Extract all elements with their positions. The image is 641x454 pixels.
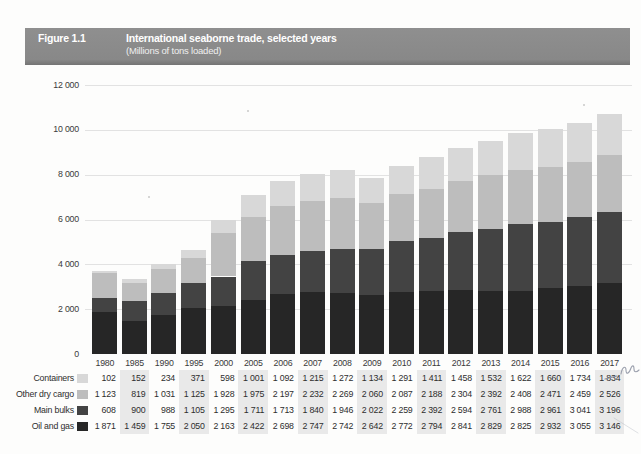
legend-cell-main-bulks: Main bulks	[0, 402, 90, 418]
value-containers-1980: 102	[90, 370, 120, 386]
value-other-dry-cargo-2011: 2 188	[417, 386, 447, 402]
bar-segment-other-dry-cargo-2013	[478, 175, 503, 229]
x-axis-label-2011: 2011	[417, 356, 447, 370]
bar-segment-containers-1990	[151, 264, 176, 269]
table-corner-cell	[0, 356, 90, 370]
value-other-dry-cargo-2013: 2 392	[476, 386, 506, 402]
bar-segment-oil-and-gas-1985	[122, 321, 147, 354]
bar-1985	[122, 85, 147, 354]
bar-segment-other-dry-cargo-2016	[567, 162, 592, 217]
bar-segment-main-bulks-2015	[538, 222, 563, 288]
bar-2005	[241, 85, 266, 354]
bar-segment-main-bulks-1995	[181, 283, 206, 308]
bar-segment-containers-2013	[478, 141, 503, 175]
x-axis-label-1985: 1985	[120, 356, 150, 370]
x-axis-label-2008: 2008	[328, 356, 358, 370]
bar-segment-oil-and-gas-2010	[389, 292, 414, 354]
value-main-bulks-2014: 2 988	[506, 402, 536, 418]
bar-segment-oil-and-gas-2009	[359, 295, 384, 354]
bar-segment-oil-and-gas-2014	[508, 291, 533, 354]
figure-header: Figure 1.1 International seaborne trade,…	[25, 28, 630, 65]
value-main-bulks-2005: 1 711	[238, 402, 268, 418]
x-axis-label-2015: 2015	[535, 356, 565, 370]
bar-2008	[330, 85, 355, 354]
legend-swatch-other-dry-cargo	[77, 390, 88, 399]
value-oil-and-gas-1985: 1 459	[120, 418, 150, 434]
table-year-header-row: 1980198519901995200020052006200720082009…	[0, 356, 641, 370]
legend-cell-oil-and-gas: Oil and gas	[0, 418, 90, 434]
value-main-bulks-2012: 2 594	[446, 402, 476, 418]
bar-2000	[211, 85, 236, 354]
scan-speck	[583, 104, 585, 106]
bar-segment-containers-2017	[597, 114, 622, 155]
bar-segment-containers-2005	[241, 195, 266, 217]
bar-segment-oil-and-gas-1990	[151, 315, 176, 354]
bar-segment-main-bulks-2008	[330, 249, 355, 293]
value-oil-and-gas-2015: 2 932	[535, 418, 565, 434]
x-axis-label-2017: 2017	[595, 356, 625, 370]
bar-2009	[359, 85, 384, 354]
bar-segment-oil-and-gas-2013	[478, 291, 503, 354]
x-axis-label-1980: 1980	[90, 356, 120, 370]
bar-segment-main-bulks-2011	[419, 238, 444, 292]
bar-segment-oil-and-gas-2000	[211, 306, 236, 354]
bar-segment-main-bulks-2014	[508, 224, 533, 291]
bar-segment-other-dry-cargo-2010	[389, 194, 414, 241]
x-axis-label-2005: 2005	[238, 356, 268, 370]
x-axis-label-2006: 2006	[268, 356, 298, 370]
bar-segment-other-dry-cargo-2006	[270, 206, 295, 255]
value-main-bulks-2016: 3 041	[565, 402, 595, 418]
legend-label-containers: Containers	[33, 373, 74, 383]
bar-segment-containers-2006	[270, 181, 295, 205]
value-containers-2008: 1 272	[328, 370, 358, 386]
bar-segment-oil-and-gas-2012	[448, 290, 473, 354]
bar-segment-oil-and-gas-2015	[538, 288, 563, 354]
value-other-dry-cargo-2016: 2 459	[565, 386, 595, 402]
y-tick-label-12000: 12 000	[19, 80, 79, 91]
bar-2007	[300, 85, 325, 354]
value-other-dry-cargo-1990: 1 031	[149, 386, 179, 402]
value-other-dry-cargo-2006: 2 197	[268, 386, 298, 402]
figure-subtitle: (Millions of tons loaded)	[126, 45, 630, 56]
value-oil-and-gas-2011: 2 794	[417, 418, 447, 434]
value-oil-and-gas-2000: 2 163	[209, 418, 239, 434]
value-containers-2014: 1 622	[506, 370, 536, 386]
value-containers-2016: 1 734	[565, 370, 595, 386]
value-main-bulks-1980: 608	[90, 402, 120, 418]
value-other-dry-cargo-2007: 2 232	[298, 386, 328, 402]
x-axis-label-2013: 2013	[476, 356, 506, 370]
bar-segment-other-dry-cargo-1980	[92, 273, 117, 298]
table-row-other-dry-cargo: Other dry cargo1 1238191 0311 1251 9281 …	[0, 386, 641, 402]
x-axis-label-2009: 2009	[357, 356, 387, 370]
value-main-bulks-2008: 1 946	[328, 402, 358, 418]
stacked-bar-plot-area	[85, 85, 632, 354]
value-main-bulks-2007: 1 840	[298, 402, 328, 418]
value-other-dry-cargo-1985: 819	[120, 386, 150, 402]
y-tick-label-8000: 8 000	[19, 169, 79, 180]
value-oil-and-gas-2008: 2 742	[328, 418, 358, 434]
x-axis-label-2016: 2016	[565, 356, 595, 370]
x-axis-label-2014: 2014	[506, 356, 536, 370]
value-containers-2007: 1 215	[298, 370, 328, 386]
bar-segment-containers-2011	[419, 157, 444, 189]
bar-1980	[92, 85, 117, 354]
value-oil-and-gas-2014: 2 825	[506, 418, 536, 434]
bar-segment-other-dry-cargo-2009	[359, 203, 384, 249]
value-containers-2012: 1 458	[446, 370, 476, 386]
bar-segment-other-dry-cargo-1995	[181, 258, 206, 283]
value-oil-and-gas-1990: 1 755	[149, 418, 179, 434]
bar-1995	[181, 85, 206, 354]
value-containers-2005: 1 001	[238, 370, 268, 386]
value-oil-and-gas-2010: 2 772	[387, 418, 417, 434]
bar-segment-oil-and-gas-1995	[181, 308, 206, 354]
value-oil-and-gas-2005: 2 422	[238, 418, 268, 434]
value-main-bulks-2017: 3 196	[595, 402, 625, 418]
x-axis-label-2010: 2010	[387, 356, 417, 370]
x-axis-label-2012: 2012	[446, 356, 476, 370]
bar-segment-containers-2012	[448, 148, 473, 181]
value-oil-and-gas-2016: 3 055	[565, 418, 595, 434]
value-main-bulks-2013: 2 761	[476, 402, 506, 418]
table-row-main-bulks: Main bulks6089009881 1051 2951 7111 7131…	[0, 402, 641, 418]
scan-speck	[247, 110, 249, 112]
bar-2016	[567, 85, 592, 354]
